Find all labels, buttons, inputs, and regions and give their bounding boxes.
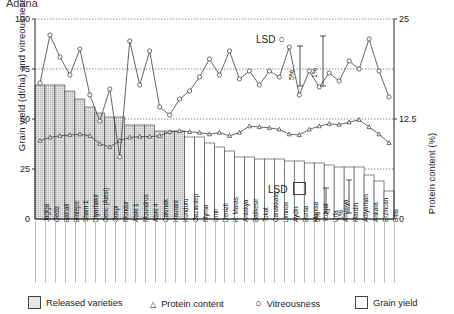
vitreousness-point [237, 77, 241, 81]
x-label-divider [95, 221, 96, 283]
x-label-divider [294, 221, 295, 283]
vitreousness-point [128, 39, 132, 43]
vitreousness-point [217, 73, 221, 77]
legend-item-grain-yield: Grain yield [355, 296, 417, 309]
vitreousness-point [327, 71, 331, 75]
x-label-divider [75, 221, 76, 283]
grain-yield-icon [355, 296, 368, 309]
x-label-divider [155, 221, 156, 283]
x-axis-label-denizli: Denizli [222, 204, 229, 222]
legend-label: Released varieties [46, 298, 122, 308]
x-axis-label-adiyaman: Adiyaman [362, 194, 369, 222]
vitreousness-point [247, 69, 251, 73]
x-axis-label-gaziantep: Gaziantep [192, 194, 199, 222]
x-label-divider [364, 221, 365, 283]
x-label-divider [45, 221, 46, 283]
vitreousness-point [48, 33, 52, 37]
legend-item-protein-content: △Protein content [150, 299, 224, 309]
x-axis-label-gokpi: Gokpi [112, 206, 119, 222]
x-label-divider [334, 221, 335, 283]
vitreousness-point [148, 49, 152, 53]
x-label-divider [85, 221, 86, 283]
x-label-divider [175, 221, 176, 283]
legend-item-vitreousness: ○Vitreousness [255, 298, 320, 309]
vitreousness-point [78, 47, 82, 51]
x-label-divider [344, 221, 345, 283]
x-label-divider [195, 221, 196, 283]
protein-content-point [247, 124, 251, 128]
x-label-divider [314, 221, 315, 283]
vitreousness-point [168, 113, 172, 117]
x-label-divider [135, 221, 136, 283]
lsd-grainyield-1pct: 1% [337, 210, 344, 220]
x-label-divider [284, 221, 285, 283]
x-axis-label-diyarbakir: Diyarbakir [92, 194, 99, 222]
chart-root: Adana Grain yield (dt/ha) and vitreousne… [0, 0, 454, 314]
y-left-tick: 100 [15, 14, 30, 24]
vitreousness-point [227, 49, 231, 53]
x-axis-label-jagiga: Jagiga [43, 204, 50, 222]
x-axis-label-balikesir: Balikesir [252, 199, 259, 222]
vitreousness-point [187, 89, 191, 93]
x-label-divider [105, 221, 106, 283]
vitreousness-point [277, 75, 281, 79]
vitreousness-point [207, 57, 211, 61]
vitreousness-point [347, 59, 351, 63]
released-varieties-icon [28, 296, 41, 309]
legend-label: Grain yield [373, 298, 417, 308]
x-label-divider [394, 221, 395, 283]
x-label-divider [35, 221, 36, 283]
x-label-divider [324, 221, 325, 283]
y-left-tick: 25 [20, 164, 30, 174]
vitreousness-point [118, 155, 122, 159]
x-axis-label-erzincan: Erzincan [382, 198, 389, 222]
vitreousness-point [387, 95, 391, 99]
x-axis-label-gediz: Gediz [53, 206, 60, 222]
protein-content-point [367, 125, 371, 129]
y-left-tick: 75 [20, 64, 30, 74]
vitreousness-icon: ○ [255, 298, 262, 309]
protein-content-point [327, 122, 331, 126]
x-axis-label-kunduru: Kunduru [182, 199, 189, 222]
x-axis-label-genc-aiesi-: Genc (Aiesi) [102, 188, 109, 222]
x-axis-label-atski-1: Atski 1 [132, 204, 139, 222]
x-label-divider [115, 221, 116, 283]
x-axis-label-mardin: Mardin [352, 203, 359, 222]
vitreousness-point [337, 79, 341, 83]
x-axis-label-ankara: Ankara [372, 202, 379, 222]
x-axis-label-bursa: Bursa [302, 206, 309, 222]
lsd-grainyield-label: LSD [268, 182, 306, 195]
x-axis-label-myrna: Myrna [202, 205, 209, 222]
vitreousness-point [377, 69, 381, 73]
vitreousness-point [88, 93, 92, 97]
x-axis-label-sham-1: Sham 1 [82, 201, 89, 222]
x-label-divider [205, 221, 206, 283]
x-axis-label-bitlis: Bitlis [392, 209, 399, 222]
x-axis-label-moundros: Moundros [142, 194, 149, 222]
vitreousness-point [297, 93, 301, 97]
y-right-tick: 12.5 [399, 114, 417, 124]
x-label-divider [55, 221, 56, 283]
x-label-divider [304, 221, 305, 283]
x-axis-label-tokat: Tokat [262, 207, 269, 222]
x-axis-label-atski-4: Atski 4 [152, 204, 159, 222]
lsd-vitreousness-5pct: 5% [288, 70, 295, 80]
x-label-divider [125, 221, 126, 283]
y-left-tick: 50 [20, 114, 30, 124]
vitreousness-point [178, 97, 182, 101]
x-label-divider [185, 221, 186, 283]
vitreousness-point [317, 85, 321, 89]
x-axis-label-haurani: Haurani [172, 200, 179, 222]
vitreousness-point [58, 55, 62, 59]
protein-content-icon: △ [150, 300, 156, 309]
legend-item-released-varieties: Released varieties [28, 296, 122, 309]
vitreousness-point [38, 81, 42, 85]
bar-gediz [45, 85, 55, 219]
legend-label: Vitreousness [267, 299, 321, 309]
x-label-divider [165, 221, 166, 283]
vitreousness-point [68, 73, 72, 77]
x-axis-label-antakya: Antakya [242, 200, 249, 222]
vitreousness-point [158, 105, 162, 109]
x-axis-label-bintepe: Bintepe [73, 201, 80, 222]
vitreousness-point [197, 75, 201, 79]
